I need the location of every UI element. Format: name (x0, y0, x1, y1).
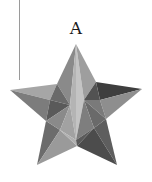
faceted-star-icon (0, 0, 152, 182)
